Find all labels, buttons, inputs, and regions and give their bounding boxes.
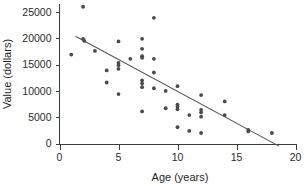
data-point — [152, 71, 156, 75]
scatter-plot-figure: 0500010000150002000025000 05101520 Age (… — [0, 0, 305, 186]
data-point — [93, 49, 97, 53]
data-point — [140, 110, 144, 114]
data-point — [246, 130, 250, 134]
data-point — [140, 82, 144, 86]
y-axis-title: Value (dollars) — [1, 39, 13, 109]
data-point — [117, 40, 121, 44]
data-point — [152, 86, 156, 90]
x-axis-ticks: 05101520 — [57, 145, 302, 163]
data-point — [81, 5, 85, 9]
data-point — [140, 85, 144, 89]
x-axis-title: Age (years) — [152, 171, 209, 183]
y-tick-label: 15000 — [22, 58, 51, 70]
x-tick-label: 10 — [172, 151, 184, 163]
data-point — [152, 57, 156, 61]
data-point — [199, 93, 203, 97]
data-point — [152, 16, 156, 20]
x-tick-label: 5 — [116, 151, 122, 163]
x-tick-label: 0 — [57, 151, 63, 163]
scatter-plot-screenshot: 0500010000150002000025000 05101520 Age (… — [0, 0, 305, 186]
data-point — [128, 57, 132, 61]
data-point — [223, 100, 227, 104]
data-point — [270, 131, 274, 135]
data-point — [117, 67, 121, 71]
data-point — [187, 129, 191, 133]
data-point — [164, 106, 168, 110]
data-point — [199, 115, 203, 119]
data-point — [176, 107, 180, 111]
y-tick-label: 0 — [46, 137, 52, 149]
y-tick-label: 5000 — [28, 111, 52, 123]
data-point — [199, 111, 203, 115]
x-tick-label: 20 — [290, 151, 302, 163]
data-point — [164, 89, 168, 93]
y-axis-ticks: 0500010000150002000025000 — [22, 6, 59, 150]
data-point — [223, 113, 227, 117]
data-point — [199, 131, 203, 135]
data-point — [105, 81, 109, 85]
y-tick-label: 20000 — [22, 32, 51, 44]
data-points — [69, 5, 273, 135]
data-point — [82, 39, 86, 43]
data-point — [187, 113, 191, 117]
data-point — [117, 63, 121, 67]
plot-axes — [60, 4, 298, 145]
data-point — [140, 56, 144, 60]
data-point — [117, 92, 121, 96]
y-tick-label: 10000 — [22, 85, 51, 97]
data-point — [140, 37, 144, 41]
data-point — [69, 53, 73, 57]
data-point — [176, 84, 180, 88]
x-tick-label: 15 — [231, 151, 243, 163]
data-point — [176, 125, 180, 129]
data-point — [140, 47, 144, 51]
data-point — [105, 68, 109, 72]
y-tick-label: 25000 — [22, 6, 51, 18]
